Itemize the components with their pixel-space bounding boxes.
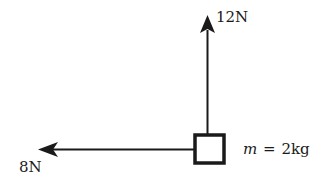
force-label-left: 8N [19, 160, 42, 175]
mass-label: m = 2kg [243, 142, 310, 157]
force-label-up: 12N [216, 10, 248, 25]
mass-value: 2kg [281, 140, 309, 158]
mass-block [195, 135, 224, 163]
mass-equals: = [263, 140, 276, 158]
mass-symbol: m [243, 140, 257, 158]
